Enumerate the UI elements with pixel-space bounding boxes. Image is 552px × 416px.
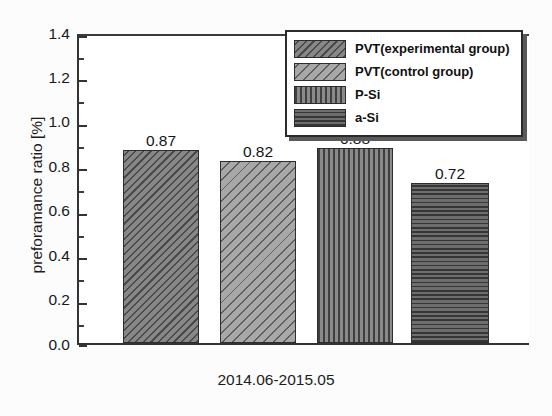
x-axis-label: 2014.06-2015.05 (0, 371, 552, 389)
y-tick-major (79, 169, 87, 171)
legend-swatch-icon (294, 109, 346, 127)
y-tick-major (79, 80, 87, 82)
bar-pvt-experimental[interactable] (123, 150, 199, 343)
y-tick-major (79, 258, 87, 260)
y-tick-label: 1.4 (22, 25, 70, 43)
bar-p-si[interactable] (317, 148, 393, 343)
legend-item-a-si[interactable]: a-Si (294, 107, 514, 128)
legend-item-pvt-experimental[interactable]: PVT(experimental group) (294, 38, 514, 59)
legend-item-p-si[interactable]: P-Si (294, 84, 514, 105)
y-tick-major (79, 214, 87, 216)
y-tick-major (79, 36, 87, 38)
legend-swatch-icon (294, 63, 346, 81)
legend-item-label: P-Si (355, 87, 380, 102)
y-tick-minor (79, 236, 84, 238)
chart-legend: PVT(experimental group) PVT(control grou… (285, 30, 523, 137)
y-tick-minor (79, 102, 84, 104)
y-tick-minor (79, 191, 84, 193)
legend-item-pvt-control[interactable]: PVT(control group) (294, 61, 514, 82)
y-tick-minor (79, 147, 84, 149)
y-tick-label: 1.2 (22, 69, 70, 87)
bar-chart-figure: preforamance ratio [%] 1.4 1.2 1.0 0.8 0… (0, 0, 552, 416)
legend-swatch-icon (294, 40, 346, 58)
bar-value-label: 0.72 (435, 165, 465, 183)
y-tick-major (79, 345, 87, 347)
legend-swatch-icon (294, 86, 346, 104)
y-tick-major (79, 125, 87, 127)
bar-value-label: 0.82 (243, 143, 273, 161)
bar-value-label: 0.87 (146, 132, 176, 150)
legend-item-label: PVT(control group) (355, 64, 473, 79)
legend-item-label: a-Si (355, 110, 379, 125)
bar-a-si[interactable] (411, 183, 489, 343)
bar-pvt-control[interactable] (220, 161, 296, 343)
y-axis-label: preforamance ratio [%] (28, 95, 46, 295)
y-tick-minor (79, 58, 84, 60)
legend-item-label: PVT(experimental group) (355, 41, 510, 56)
y-tick-major (79, 303, 87, 305)
y-tick-minor (79, 280, 84, 282)
y-tick-minor (79, 325, 84, 327)
y-tick-label: 0.0 (22, 336, 70, 354)
